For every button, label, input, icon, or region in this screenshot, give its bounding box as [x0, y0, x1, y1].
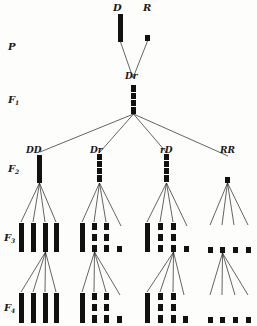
label-f1: F1 [7, 94, 19, 106]
f1-hybrid-label: Dr [124, 71, 139, 81]
svg-text:RR: RR [219, 145, 235, 155]
f4-generation [19, 293, 251, 323]
mendel-diagram: P F1 F2 F3 F4 D R Dr DD Dr rD RR [0, 0, 257, 326]
f2-generation [37, 154, 230, 183]
label-f2: F2 [7, 163, 19, 175]
parent-dominant-label: D [112, 2, 122, 13]
f3-f4-lines [21, 252, 248, 295]
f3-generation [19, 223, 251, 253]
dominant-parent-bar [118, 14, 123, 42]
f2-f3-lines [21, 183, 248, 226]
parent-generation: D R [112, 2, 151, 78]
f1-generation: Dr [40, 71, 228, 156]
svg-text:DD: DD [25, 145, 42, 155]
generation-labels: P F1 F2 F3 F4 [3, 41, 19, 314]
parent-recessive-label: R [142, 2, 151, 13]
f2-labels: DD Dr rD RR [25, 145, 235, 155]
recessive-parent-square [145, 35, 150, 41]
label-f3: F3 [3, 232, 15, 244]
label-f4: F4 [3, 302, 15, 314]
svg-text:Dr: Dr [89, 145, 104, 155]
svg-text:rD: rD [160, 145, 173, 155]
label-p: P [7, 41, 16, 52]
